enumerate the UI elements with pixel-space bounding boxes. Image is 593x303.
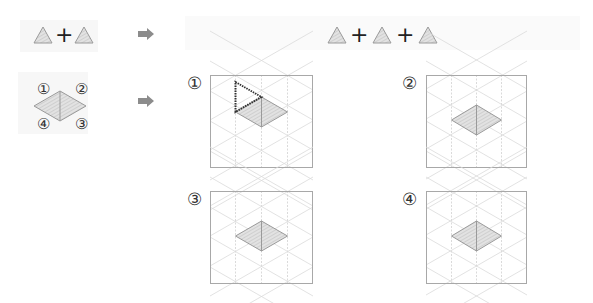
plus-sign: + xyxy=(350,24,368,46)
rule-right-triangle-1 xyxy=(327,26,347,48)
option-2-grid[interactable] xyxy=(426,75,527,172)
plus-sign: + xyxy=(55,24,73,46)
key-label-2: ② xyxy=(75,81,88,97)
rule-left-triangle-2 xyxy=(74,26,94,48)
rule-right-triangle-2 xyxy=(372,26,392,48)
option-label-1[interactable]: ① xyxy=(187,75,202,91)
option-label-3[interactable]: ③ xyxy=(187,191,202,207)
option-label-2[interactable]: ② xyxy=(402,75,417,91)
plus-sign: + xyxy=(396,24,414,46)
key-label-4: ④ xyxy=(37,116,50,132)
key-label-1: ① xyxy=(37,81,50,97)
option-label-4[interactable]: ④ xyxy=(402,191,417,207)
option-3-grid[interactable] xyxy=(210,191,313,288)
right-arrow-icon xyxy=(138,28,155,40)
rule-left-triangle-1 xyxy=(33,26,53,48)
key-label-3: ③ xyxy=(75,116,88,132)
right-arrow-icon xyxy=(138,95,155,107)
option-1-grid[interactable] xyxy=(210,75,313,172)
option-4-grid[interactable] xyxy=(426,191,527,288)
rule-right-triangle-3 xyxy=(418,26,438,48)
